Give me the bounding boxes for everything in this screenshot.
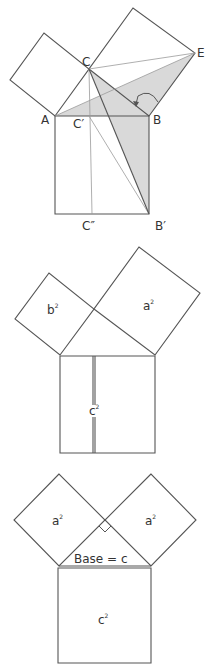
- label-bottom-c-squared: c2: [98, 612, 109, 627]
- label-e: E: [197, 46, 205, 60]
- line-c-c-double-prime: [89, 69, 92, 214]
- label-a: A: [41, 113, 50, 127]
- label-c-prime: C′: [73, 117, 84, 131]
- label-b: B: [153, 113, 161, 127]
- figure-1-euclid-proof: A B C E C′ C″ B′: [10, 8, 205, 233]
- label-c-squared: c2: [89, 403, 100, 418]
- label-base-caption: Base = c: [74, 552, 128, 566]
- right-angle-marker-icon: [99, 526, 111, 532]
- label-a-squared: a2: [143, 298, 154, 313]
- label-right-a-squared: a2: [145, 513, 156, 528]
- label-c: C: [82, 55, 90, 69]
- figure-3-isosceles: a2 a2 Base = c c2: [14, 474, 196, 663]
- label-b-prime: B′: [155, 219, 166, 233]
- label-c-double-prime: C″: [82, 219, 95, 233]
- label-b-squared: b2: [47, 302, 59, 317]
- square-on-ac: [10, 33, 89, 116]
- figure-2-squares: b2 a2 c2: [15, 247, 200, 453]
- square-c-squared: [60, 356, 155, 453]
- label-left-a-squared: a2: [52, 513, 63, 528]
- pythagorean-diagrams: A B C E C′ C″ B′ b2 a2 c2 a2 a2 Base = c…: [0, 0, 215, 670]
